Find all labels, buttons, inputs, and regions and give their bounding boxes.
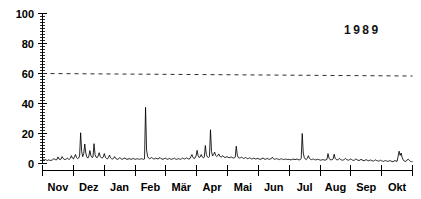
y-tick-label-0: 0 [28,158,34,170]
x-tick-label-Mai: Mai [234,181,252,193]
x-tick-label-Mär: Mär [171,181,191,193]
time-series-chart: 020406080100 NovDezJanFebMärAprMaiJunJul… [0,0,421,199]
y-tick-label-20: 20 [22,128,34,140]
chart-container: 020406080100 NovDezJanFebMärAprMaiJunJul… [0,0,421,199]
x-tick-label-Jan: Jan [110,181,129,193]
x-tick-label-Nov: Nov [48,181,70,193]
x-tick-label-Jul: Jul [297,181,313,193]
x-tick-label-Okt: Okt [388,181,407,193]
x-tick-label-Feb: Feb [141,181,161,193]
x-tick-label-Dez: Dez [79,181,99,193]
y-tick-label-60: 60 [22,68,34,80]
y-tick-label-80: 80 [22,38,34,50]
x-tick-label-Aug: Aug [325,181,346,193]
x-tick-label-Jun: Jun [264,181,284,193]
year-annotation-label: 1989 [344,23,381,37]
y-tick-label-40: 40 [22,98,34,110]
y-tick-label-100: 100 [16,8,34,20]
x-tick-label-Apr: Apr [203,181,223,193]
x-tick-label-Sep: Sep [356,181,376,193]
